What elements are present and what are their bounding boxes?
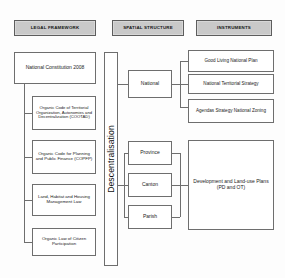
column-header-spatial-structure-label: SPATIAL STRUCTURE — [123, 26, 173, 31]
node-descentralisation: Descentralisation — [104, 52, 118, 266]
node-land-habitat-housing-law-label: Land, Habitat and Housing Management Law — [35, 195, 93, 205]
node-agendas-strategy-national-zoning-label: Agendas Strategy National Zoning — [196, 108, 266, 113]
connector-bus-to-territorial-strategy — [180, 84, 188, 85]
node-national-label: National — [141, 81, 159, 87]
connector-spine-to-national — [118, 84, 128, 85]
connector-constitution-to-land-law — [24, 200, 32, 201]
connector-constitution-to-cootad — [24, 113, 32, 114]
node-national-constitution-label: National Constitution 2008 — [26, 65, 85, 71]
connector-constitution-trunk — [24, 84, 25, 242]
connector-bus-to-pdot — [180, 185, 188, 186]
column-header-spatial-structure: SPATIAL STRUCTURE — [112, 20, 184, 36]
node-province: Province — [128, 141, 172, 165]
node-cootad: Organic Code of Territorial Organization… — [32, 96, 96, 130]
node-cootad-label: Organic Code of Territorial Organization… — [35, 106, 93, 120]
node-good-living-national-plan: Good Living National Plan — [188, 50, 274, 72]
node-development-land-use-plans-label: Development and Land-use Plans (PD and O… — [191, 179, 271, 190]
column-header-legal-framework: LEGAL FRAMEWORK — [14, 20, 96, 36]
connector-constitution-to-copfp — [24, 157, 32, 158]
node-development-land-use-plans: Development and Land-use Plans (PD and O… — [188, 140, 274, 230]
node-province-label: Province — [140, 150, 159, 156]
connector-bus-to-good-living-plan — [180, 61, 188, 62]
column-header-instruments-label: INSTRUMENTS — [217, 26, 251, 31]
node-citizen-participation-law-label: Organic Law of Citizen Participation — [35, 237, 93, 247]
node-parish: Parish — [128, 205, 172, 229]
node-land-habitat-housing-law: Land, Habitat and Housing Management Law — [32, 184, 96, 216]
node-agendas-strategy-national-zoning: Agendas Strategy National Zoning — [188, 99, 274, 123]
node-national-constitution: National Constitution 2008 — [14, 52, 96, 84]
column-header-instruments: INSTRUMENTS — [196, 20, 272, 36]
node-canton-label: Canton — [142, 182, 158, 188]
node-descentralisation-label: Descentralisation — [106, 125, 116, 193]
node-national-territorial-strategy: National Territorial Strategy — [188, 74, 274, 94]
node-good-living-national-plan-label: Good Living National Plan — [204, 58, 257, 63]
node-national-territorial-strategy-label: National Territorial Strategy — [203, 81, 258, 86]
connector-province-to-pdot-bus — [172, 153, 180, 154]
node-national: National — [128, 70, 172, 98]
connector-national-to-instruments-bus — [172, 84, 180, 85]
diagram-canvas: LEGAL FRAMEWORK SPATIAL STRUCTURE INSTRU… — [0, 0, 285, 278]
node-copfp-label: Organic Code for Planning and Public Fin… — [35, 152, 93, 162]
connector-canton-to-pdot-bus — [172, 185, 180, 186]
node-canton: Canton — [128, 173, 172, 197]
node-copfp: Organic Code for Planning and Public Fin… — [32, 140, 96, 174]
connector-constitution-to-participation-law — [24, 242, 32, 243]
node-parish-label: Parish — [143, 214, 157, 220]
connector-parish-to-pdot-bus — [172, 217, 180, 218]
node-citizen-participation-law: Organic Law of Citizen Participation — [32, 228, 96, 256]
connector-bus-to-agendas-zoning — [180, 107, 188, 108]
column-header-legal-framework-label: LEGAL FRAMEWORK — [31, 26, 80, 31]
